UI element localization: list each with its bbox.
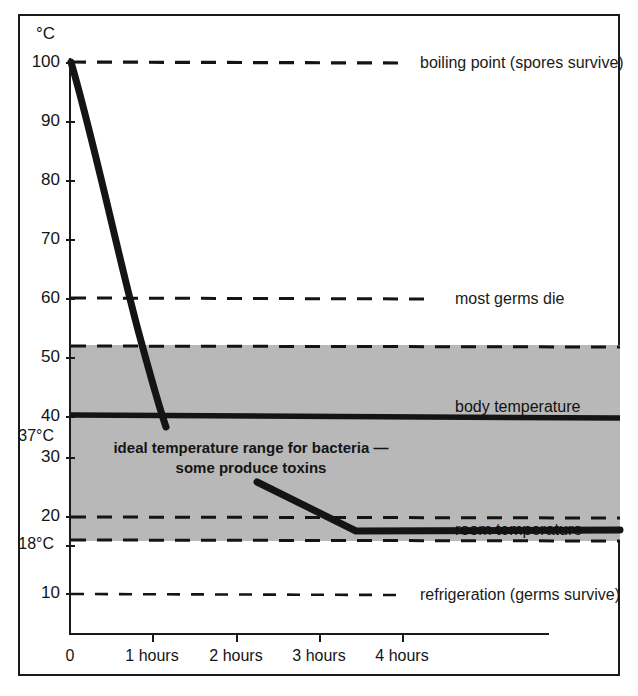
series-cooling-curve [71,62,166,427]
chart-page: °C 100 90 80 70 60 50 40 37°C 30 20 18°C… [0,0,638,696]
reference-line-refrigeration [71,594,404,595]
annotation-line-2: some produce toxins [106,458,396,478]
label-most-germs-die: most germs die [455,290,564,308]
reference-line-band-top-50 [71,346,620,347]
label-boiling-point: boiling point (spores survive) [420,54,624,72]
reference-line-most-germs-die [71,298,434,299]
reference-line-room-temperature [71,540,620,541]
label-room-temperature: room temperature [455,521,582,539]
label-refrigeration: refrigeration (germs survive) [420,586,620,604]
annotation-line-1: ideal temperature range for bacteria — [106,438,396,458]
reference-line-band-20 [71,517,620,518]
reference-line-boiling [71,62,404,63]
label-body-temperature: body temperature [455,398,580,416]
annotation-ideal-range: ideal temperature range for bacteria — s… [106,438,396,479]
